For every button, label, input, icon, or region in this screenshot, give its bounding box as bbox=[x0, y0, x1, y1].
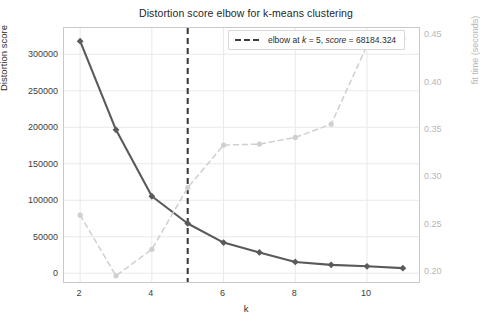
x-tick: 4 bbox=[131, 288, 171, 298]
y-tick-left: 0 bbox=[2, 268, 58, 278]
chart-canvas bbox=[64, 28, 419, 282]
y-tick-right: 0.30 bbox=[424, 171, 464, 181]
y-tick-left: 300000 bbox=[2, 49, 58, 59]
y-tick-right: 0.45 bbox=[424, 29, 464, 39]
chart-legend: elbow at k = 5, score = 68184.324 bbox=[228, 30, 405, 50]
y-tick-right: 0.40 bbox=[424, 77, 464, 87]
y-tick-right: 0.35 bbox=[424, 124, 464, 134]
x-tick: 8 bbox=[274, 288, 314, 298]
y-tick-left: 150000 bbox=[2, 159, 58, 169]
y-axis-left-ticks: 050000100000150000200000250000300000 bbox=[0, 27, 58, 283]
y-tick-right: 0.25 bbox=[424, 219, 464, 229]
chart-figure: Distortion score elbow for k-means clust… bbox=[0, 0, 492, 322]
y-axis-right-ticks: 0.200.250.300.350.400.45 bbox=[424, 27, 484, 283]
x-tick: 10 bbox=[346, 288, 386, 298]
x-axis-ticks: 246810 bbox=[63, 288, 420, 304]
y-tick-right: 0.20 bbox=[424, 266, 464, 276]
x-tick: 6 bbox=[203, 288, 243, 298]
y-tick-left: 50000 bbox=[2, 232, 58, 242]
x-axis-label: k bbox=[0, 303, 492, 314]
x-tick: 2 bbox=[59, 288, 99, 298]
y-tick-left: 100000 bbox=[2, 195, 58, 205]
legend-dash-icon bbox=[235, 35, 261, 45]
y-tick-left: 200000 bbox=[2, 122, 58, 132]
legend-label: elbow at k = 5, score = 68184.324 bbox=[268, 35, 396, 45]
plot-area bbox=[63, 27, 420, 283]
y-tick-left: 250000 bbox=[2, 86, 58, 96]
chart-title: Distortion score elbow for k-means clust… bbox=[0, 7, 492, 19]
